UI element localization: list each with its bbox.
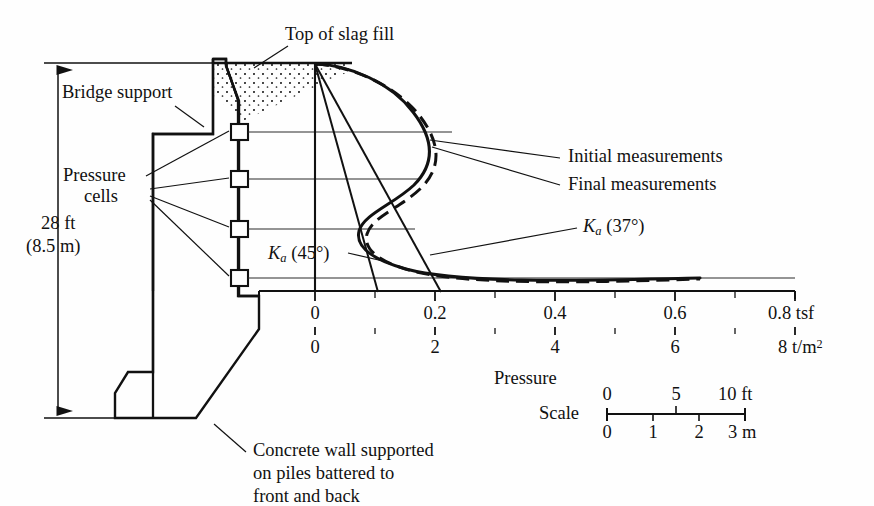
tick-tsf-1: 0.2: [411, 303, 459, 324]
metric-unit-text: 8 t/m: [778, 337, 817, 357]
tick-metric-1: 2: [415, 337, 455, 358]
concrete-wall-caption-line1: Concrete wall supported: [253, 440, 434, 461]
pressure-cells-label-line1: Pressure: [63, 165, 126, 186]
ka-45-symbol: K: [268, 243, 280, 263]
leader-initial: [430, 140, 560, 158]
tick-metric-4-with-unit: 8 t/m2: [778, 337, 823, 358]
leader-cell-2: [150, 178, 229, 189]
ka-45-label: Ka (45°): [268, 243, 330, 265]
leader-cell-1: [146, 131, 229, 176]
ka-37-label: Ka (37°): [583, 216, 645, 238]
scale-ft-2: 10 ft: [718, 384, 752, 405]
ka-37-angle: (37°): [602, 216, 645, 236]
pressure-axis-metric-ticks: [315, 327, 795, 335]
slag-fill-region: [210, 60, 360, 126]
scale-bar: [607, 406, 745, 421]
annotation-leader-lines: [146, 46, 577, 452]
scale-m-1: 1: [636, 422, 670, 443]
pressure-axis-tsf: [259, 291, 795, 301]
tick-metric-3: 6: [655, 337, 695, 358]
wall-height-label-ft: 28 ft: [41, 213, 75, 234]
leader-final: [432, 147, 560, 185]
tick-tsf-0: 0: [295, 303, 335, 324]
bridge-support-outline: [153, 59, 238, 418]
tick-tsf-3: 0.6: [651, 303, 699, 324]
scale-ft-1: 5: [659, 384, 693, 405]
top-of-slag-fill-label: Top of slag fill: [285, 24, 394, 45]
figure-canvas: Top of slag fill Bridge support Pressure…: [0, 0, 874, 506]
tick-tsf-4-with-unit: 0.8 tsf: [768, 303, 814, 324]
initial-measurements-label: Initial measurements: [568, 146, 723, 167]
scale-m-0: 0: [590, 422, 624, 443]
pressure-axis-title: Pressure: [494, 368, 557, 389]
bridge-support-label: Bridge support: [62, 82, 172, 103]
concrete-wall-caption-line2: on piles battered to: [253, 463, 394, 484]
tick-metric-2: 4: [535, 337, 575, 358]
scale-label: Scale: [539, 403, 579, 424]
wall-height-label-m: (8.5 m): [26, 236, 80, 257]
scale-ft-0: 0: [590, 384, 624, 405]
final-measurements-label: Final measurements: [568, 174, 716, 195]
initial-measurements-curve: [316, 64, 700, 280]
ka-37-symbol: K: [583, 216, 595, 236]
leader-concrete-wall: [214, 424, 246, 452]
leader-ka37: [430, 228, 577, 255]
tick-tsf-2: 0.4: [531, 303, 579, 324]
concrete-wall-caption-line3: front and back: [253, 486, 360, 506]
leader-bridge-support: [175, 106, 204, 127]
scale-m-3: 3 m: [728, 422, 756, 443]
final-measurements-curve: [316, 64, 700, 282]
metric-unit-exponent: 2: [817, 337, 823, 351]
pressure-cells-label-line2: cells: [84, 186, 118, 207]
ka-45-angle: (45°): [287, 243, 330, 263]
scale-m-2: 2: [682, 422, 716, 443]
tick-metric-0: 0: [295, 337, 335, 358]
